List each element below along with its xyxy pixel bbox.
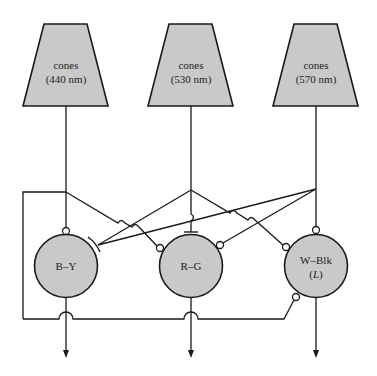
wblk-excitatory-synapse-bottom-icon — [293, 294, 300, 301]
by-output-arrow-icon — [63, 350, 69, 358]
l-to-rg — [223, 189, 316, 243]
cell-wblk: W–Blk (L) — [285, 235, 348, 298]
cell-by: B–Y — [35, 235, 98, 298]
cell-wblk-sublabel: (L) — [309, 268, 323, 281]
wblk-output-arrow-icon — [313, 350, 319, 358]
cell-wblk-label: W–Blk — [300, 254, 332, 266]
m-to-by — [98, 190, 191, 245]
wblk-excitatory-synapse-top-icon — [313, 227, 320, 234]
cone-l-label-2: (570 nm) — [296, 73, 337, 86]
rg-output-arrow-icon — [188, 350, 194, 358]
rg-excitatory-synapse-right-icon — [217, 242, 224, 249]
cone-s-label-2: (440 nm) — [46, 73, 87, 86]
cell-rg-label: R–G — [181, 260, 202, 272]
cell-wblk-body — [285, 235, 348, 298]
cone-s-label-1: cones — [53, 59, 78, 71]
cone-m-label-2: (530 nm) — [171, 73, 212, 86]
opponent-process-diagram: cones (440 nm) cones (530 nm) cones (570… — [0, 0, 377, 376]
rg-excitatory-synapse-left-icon — [157, 245, 164, 252]
l-to-by — [98, 189, 316, 245]
cone-l: cones (570 nm) — [273, 24, 358, 106]
cone-s: cones (440 nm) — [23, 24, 108, 106]
cell-rg: R–G — [160, 235, 223, 298]
cell-by-label: B–Y — [56, 260, 77, 272]
cone-m-label-1: cones — [178, 59, 203, 71]
feedback-loop-bottom — [23, 300, 294, 319]
cone-l-label-1: cones — [303, 59, 328, 71]
by-excitatory-synapse-icon — [63, 228, 70, 235]
cone-m: cones (530 nm) — [148, 24, 233, 106]
m-to-rg — [191, 190, 194, 232]
